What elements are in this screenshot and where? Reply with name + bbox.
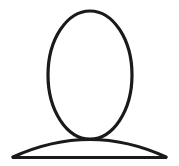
avatar-icon-canvas: User profile placeholder icon	[0, 0, 179, 166]
shoulders-arc	[13, 140, 166, 158]
user-avatar-icon: User profile placeholder icon	[0, 0, 179, 166]
head-oval	[48, 11, 132, 139]
